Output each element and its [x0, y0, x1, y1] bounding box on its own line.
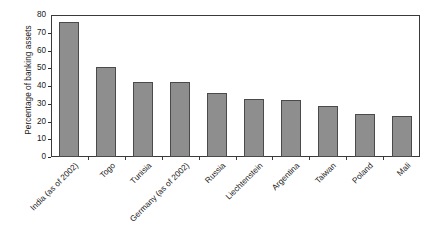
x-axis-tick-label: Poland — [351, 161, 376, 186]
x-axis-tick-labels: India (as of 2002)TogoTunisiaGermany (as… — [51, 157, 420, 244]
bar[interactable] — [318, 106, 338, 157]
bar[interactable] — [244, 99, 264, 157]
bar[interactable] — [170, 82, 190, 157]
x-axis-tick-label-text: Togo — [98, 161, 118, 181]
x-axis-tick-label-text: Taiwan — [314, 161, 339, 186]
y-axis-tick-mark — [48, 157, 51, 158]
y-axis-tick-mark — [48, 51, 51, 52]
x-axis-tick-label: Mali — [395, 161, 413, 179]
bar-slot — [88, 15, 125, 157]
y-axis-tick-mark — [48, 122, 51, 123]
x-axis-tick-label: Togo — [98, 161, 118, 181]
bar[interactable] — [133, 82, 153, 157]
bar-slot — [346, 15, 383, 157]
bar[interactable] — [59, 22, 79, 157]
y-axis-tick-mark — [48, 104, 51, 105]
y-axis-tick-label: 10 — [30, 132, 46, 146]
bar-slot — [383, 15, 420, 157]
x-axis-tick-label-text: Russia — [203, 161, 228, 186]
x-axis-tick-label-text: Liechtenstein — [224, 161, 265, 202]
x-axis-tick-label: Taiwan — [314, 161, 339, 186]
bar-slot — [309, 15, 346, 157]
bar[interactable] — [355, 114, 375, 157]
y-axis-tick-label: 40 — [30, 79, 46, 93]
y-axis-tick-label: 60 — [30, 44, 46, 58]
x-axis-tick-label: Tunisia — [129, 161, 155, 187]
x-axis-tick-label-text: India (as of 2002) — [28, 161, 80, 213]
y-axis-tick-mark — [48, 33, 51, 34]
x-axis-tick-label: Russia — [203, 161, 228, 186]
y-axis-tick-label: 30 — [30, 97, 46, 111]
bar[interactable] — [207, 93, 227, 157]
bar-slot — [162, 15, 199, 157]
y-axis-tick-label: 80 — [30, 8, 46, 22]
bar-chart-figure: Percentage of banking assets 80706050403… — [0, 0, 434, 244]
bar-slot — [125, 15, 162, 157]
x-axis-tick-label: Argentina — [270, 161, 302, 193]
bar-slot — [272, 15, 309, 157]
x-axis-tick-label-text: Poland — [351, 161, 376, 186]
y-axis-tick-label: 0 — [30, 150, 46, 164]
x-axis-tick-label: India (as of 2002) — [28, 161, 80, 213]
x-axis-tick-label: Liechtenstein — [224, 161, 265, 202]
y-axis-tick-mark — [48, 86, 51, 87]
x-axis-tick-label-text: Argentina — [270, 161, 302, 193]
bar-slot — [236, 15, 273, 157]
bar-slot — [199, 15, 236, 157]
x-axis-tick-label-text: Mali — [395, 161, 413, 179]
bars-container — [51, 15, 420, 157]
bar-slot — [51, 15, 88, 157]
y-axis-tick-label: 50 — [30, 61, 46, 75]
x-axis-tick-label-text: Tunisia — [129, 161, 155, 187]
y-axis-tick-mark — [48, 68, 51, 69]
bar[interactable] — [96, 67, 116, 157]
y-axis-tick-label: 70 — [30, 26, 46, 40]
y-axis-tick-mark — [48, 139, 51, 140]
y-axis-tick-label: 20 — [30, 115, 46, 129]
bar[interactable] — [281, 100, 301, 157]
bar[interactable] — [392, 116, 412, 157]
y-axis-tick-labels: 80706050403020100 — [30, 8, 46, 162]
